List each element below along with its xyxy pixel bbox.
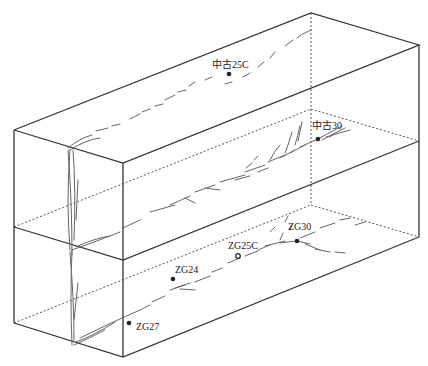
well-label: ZG24: [175, 264, 198, 275]
fault-traces-top: [68, 30, 311, 150]
well-marker: [171, 277, 176, 282]
fault-traces-front: [68, 150, 78, 345]
well-zg30: ZG30: [288, 221, 311, 243]
well-marker: [316, 137, 321, 142]
well-marker: [236, 254, 241, 259]
well-marker: [127, 321, 132, 326]
well-label: ZG27: [136, 321, 159, 332]
fault-traces-bottom: [74, 216, 365, 345]
well-zg24: ZG24: [171, 264, 199, 281]
well-zhonggu25c: 中古25C: [212, 58, 249, 76]
well-label: ZG30: [288, 221, 311, 232]
well-marker: [227, 72, 232, 77]
well-label: 中古30: [312, 119, 342, 131]
well-marker: [295, 239, 300, 244]
well-label: ZG25C: [228, 240, 258, 251]
well-zg27: ZG27: [127, 321, 160, 332]
well-label: 中古25C: [212, 58, 249, 70]
block-diagram: 中古25C 中古30 ZG30 ZG25C ZG24 ZG27: [0, 0, 428, 366]
diagram-canvas: 中古25C 中古30 ZG30 ZG25C ZG24 ZG27: [0, 0, 428, 366]
well-zg25c: ZG25C: [228, 240, 258, 258]
